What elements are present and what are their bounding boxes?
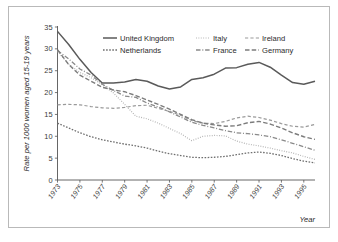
series-line-ireland [58, 104, 316, 127]
x-tick-label: 1985 [180, 182, 197, 201]
x-tick-label: 1975 [68, 182, 85, 201]
x-tick-label: 1993 [270, 182, 287, 200]
y-axis-title: Rate per 1000 women aged 15-19 years [22, 35, 31, 171]
x-tick-label: 1981 [135, 182, 152, 200]
x-tick-label: 1995 [292, 182, 309, 201]
y-tick-label: 5 [48, 154, 52, 163]
x-axis-ticks: 1973197519771979198119831985198719891991… [46, 180, 309, 201]
y-tick-label: 0 [48, 176, 52, 185]
y-tick-label: 25 [44, 66, 52, 75]
figure-container: 0510152025303519731975197719791981198319… [0, 0, 338, 242]
legend-label-ireland: Ireland [262, 34, 285, 43]
chart-legend: United KingdomItalyIrelandNetherlandsFra… [103, 34, 293, 55]
y-tick-label: 10 [44, 132, 52, 141]
x-tick-label: 1983 [158, 182, 175, 200]
series-line-italy [58, 51, 316, 159]
legend-label-france: France [213, 46, 237, 55]
series-line-netherlands [58, 123, 316, 163]
line-chart: 0510152025303519731975197719791981198319… [0, 0, 338, 242]
legend-label-italy: Italy [213, 34, 227, 43]
x-tick-label: 1987 [203, 182, 220, 201]
series-line-france [58, 51, 316, 151]
legend-label-netherlands: Netherlands [120, 46, 161, 55]
y-tick-label: 20 [44, 88, 52, 97]
legend-label-germany: Germany [262, 46, 293, 55]
x-tick-label: 1991 [247, 182, 264, 200]
y-tick-label: 35 [44, 23, 52, 32]
y-tick-label: 15 [44, 110, 52, 119]
x-tick-label: 1973 [46, 182, 63, 200]
legend-label-united-kingdom: United Kingdom [120, 34, 174, 43]
x-tick-label: 1977 [91, 182, 108, 201]
x-axis-title: Year [299, 215, 315, 224]
x-tick-label: 1989 [225, 182, 242, 200]
y-tick-label: 30 [44, 44, 52, 53]
y-axis-ticks: 05101520253035 [44, 23, 57, 185]
x-tick-label: 1979 [113, 182, 130, 200]
series-line-germany [58, 50, 316, 140]
